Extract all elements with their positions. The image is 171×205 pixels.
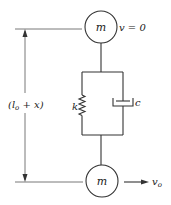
mass-spring-damper-diagram: (lo + x) m v = 0 k c m vo	[0, 0, 171, 205]
dashpot-label: c	[135, 97, 141, 108]
dimension-arrow-up-icon	[23, 29, 28, 37]
dimension-plus-x: + x	[19, 99, 40, 110]
spring-label: k	[72, 101, 78, 112]
top-velocity-label: v = 0	[119, 22, 146, 33]
bottom-velocity-label: vo	[152, 176, 162, 189]
top-mass-label: m	[96, 21, 106, 34]
bottom-velocity-subscript: o	[158, 181, 162, 189]
spring-icon	[79, 95, 85, 116]
dimension-label: (lo + x)	[8, 99, 44, 112]
velocity-arrow-right-icon	[141, 180, 149, 185]
dimension-close-paren: )	[39, 99, 44, 110]
bottom-mass-label: m	[97, 175, 107, 188]
dimension-arrow-down-icon	[23, 174, 28, 182]
